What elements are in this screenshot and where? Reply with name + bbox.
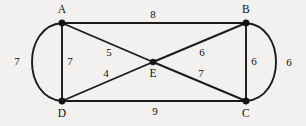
- edge-weight-arc-a-d: 7: [14, 56, 20, 67]
- edge-weight-e-c: 7: [198, 68, 204, 79]
- vertex-label-b: B: [242, 4, 250, 16]
- vertex-label-d: D: [58, 108, 67, 120]
- vertex-dot-c: [243, 98, 249, 104]
- edge-arc-a-d: [32, 23, 62, 101]
- edge-weight-b-c: 6: [251, 56, 257, 67]
- edge-weight-arc-b-c: 6: [286, 57, 292, 68]
- vertex-label-a: A: [58, 4, 67, 16]
- edge-weight-a-e: 5: [106, 47, 112, 58]
- edge-weight-d-c: 9: [152, 106, 158, 117]
- vertex-dot-a: [59, 20, 65, 26]
- edge-weight-a-d: 7: [67, 56, 73, 67]
- edge-weight-d-e: 4: [103, 68, 109, 79]
- vertex-dot-d: [59, 98, 65, 104]
- weighted-graph-figure: A B C D E 8 9 7 6 5 4 6 7 7 6: [0, 0, 306, 126]
- vertex-dot-e: [150, 59, 156, 65]
- vertex-label-c: C: [242, 108, 250, 120]
- vertex-label-e: E: [149, 68, 156, 80]
- edge-weight-e-b: 6: [199, 47, 205, 58]
- vertex-dot-b: [243, 20, 249, 26]
- edge-weight-a-b: 8: [150, 9, 156, 20]
